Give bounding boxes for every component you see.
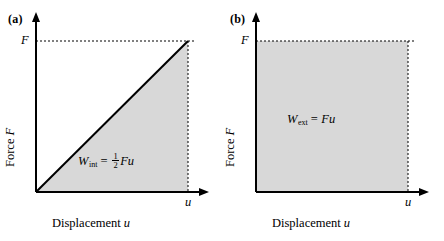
fraction-one-half: 1 2 xyxy=(112,152,118,170)
x-axis-label-var: u xyxy=(344,216,350,230)
work-expression: Fu xyxy=(321,112,335,127)
y-tick-label-force: F xyxy=(21,33,29,48)
figure-container: (a) F u Displacement u Force F Wint xyxy=(0,0,444,241)
work-subscript: ext xyxy=(298,118,308,127)
x-axis-label: Displacement u xyxy=(52,216,130,231)
x-axis-label-text: Displacement xyxy=(272,216,344,230)
y-axis-arrow-icon xyxy=(252,12,260,22)
work-subscript: int xyxy=(89,160,97,169)
panel-a: (a) F u Displacement u Force F Wint xyxy=(0,0,222,241)
y-axis-label: Force F xyxy=(3,128,18,167)
formula-internal-work: Wint = 1 2 Fu xyxy=(78,152,134,170)
x-axis-label: Displacement u xyxy=(272,216,350,231)
y-axis-label-var: F xyxy=(223,128,237,136)
x-axis-label-var: u xyxy=(124,216,130,230)
equals-sign: = xyxy=(311,112,318,127)
work-symbol: W xyxy=(78,154,88,169)
equals-sign: = xyxy=(100,154,107,169)
x-axis-label-text: Displacement xyxy=(52,216,124,230)
formula-external-work: Wext = Fu xyxy=(287,112,335,127)
panel-b: (b) F u Displacement u Force F Wext = xyxy=(222,0,444,241)
work-expression: Fu xyxy=(120,154,134,169)
fraction-denominator: 2 xyxy=(112,160,118,170)
y-axis-arrow-icon xyxy=(32,12,40,22)
y-axis-label: Force F xyxy=(223,128,238,167)
y-axis-label-text: Force xyxy=(3,135,17,167)
x-tick-label-displacement: u xyxy=(405,195,411,210)
x-tick-label-displacement: u xyxy=(185,195,191,210)
y-tick-label-force: F xyxy=(241,33,249,48)
y-axis-label-var: F xyxy=(3,128,17,136)
y-axis-label-text: Force xyxy=(223,135,237,167)
work-symbol: W xyxy=(287,112,297,127)
fraction-numerator: 1 xyxy=(112,152,118,161)
x-axis-arrow-icon xyxy=(199,188,209,196)
x-axis-arrow-icon xyxy=(419,188,429,196)
